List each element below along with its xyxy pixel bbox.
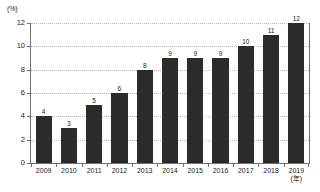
bar-value-label: 4 (42, 108, 46, 115)
bar[interactable]: 8 (137, 70, 153, 163)
bar[interactable]: 5 (86, 105, 102, 163)
x-axis-label: 2019(年) (284, 166, 309, 190)
x-axis-label-text: 2010 (56, 166, 81, 175)
bar-slot: 10 (233, 23, 258, 163)
x-axis-label-text: 2015 (183, 166, 208, 175)
x-axis-unit-label: (年) (284, 175, 309, 183)
bar[interactable]: 12 (288, 23, 304, 163)
y-tick-label: 12 (17, 19, 25, 27)
x-axis-labels: 2009201020112012201320142015201620172018… (31, 166, 309, 190)
y-tick-label: 10 (17, 42, 25, 50)
bar-slot: 9 (183, 23, 208, 163)
y-tick-mark (27, 23, 30, 24)
y-tick-label: 6 (21, 89, 25, 97)
bar-chart: (%) 024681012 43568999101112 20092010201… (0, 0, 320, 192)
bar-slot: 6 (107, 23, 132, 163)
bar-slot: 3 (56, 23, 81, 163)
x-axis-label-text: 2017 (233, 166, 258, 175)
bar[interactable]: 4 (36, 116, 52, 163)
bar-slot: 9 (157, 23, 182, 163)
bar-value-label: 12 (293, 15, 300, 22)
bar-value-label: 3 (67, 120, 71, 127)
x-axis-label-text: 2016 (208, 166, 233, 175)
y-tick-label: 0 (21, 159, 25, 167)
bar-value-label: 10 (242, 38, 249, 45)
bar-value-label: 11 (268, 27, 275, 34)
x-axis-label: 2017 (233, 166, 258, 190)
y-tick-mark (27, 70, 30, 71)
right-axis-line (309, 23, 310, 164)
bar[interactable]: 3 (61, 128, 77, 163)
bars-group: 43568999101112 (31, 23, 309, 163)
y-tick-label: 8 (21, 66, 25, 74)
x-axis-label: 2013 (132, 166, 157, 190)
x-axis-label-text: 2014 (157, 166, 182, 175)
plot-area: 024681012 43568999101112 (30, 23, 310, 164)
bar[interactable]: 11 (263, 35, 279, 163)
x-axis-label: 2012 (107, 166, 132, 190)
bar-value-label: 5 (92, 97, 96, 104)
bar-slot: 8 (132, 23, 157, 163)
y-axis-unit-label: (%) (7, 5, 17, 13)
bar-slot: 9 (208, 23, 233, 163)
x-axis-label: 2009 (31, 166, 56, 190)
bar[interactable]: 10 (238, 46, 254, 163)
bar[interactable]: 6 (111, 93, 127, 163)
bar-value-label: 9 (219, 50, 223, 57)
y-tick-mark (27, 116, 30, 117)
y-tick-mark (27, 46, 30, 47)
bar-slot: 5 (82, 23, 107, 163)
x-axis-label: 2014 (157, 166, 182, 190)
bar-slot: 11 (258, 23, 283, 163)
bar[interactable]: 9 (187, 58, 203, 163)
bar[interactable]: 9 (212, 58, 228, 163)
x-axis-label-text: 2012 (107, 166, 132, 175)
x-axis-label-text: 2009 (31, 166, 56, 175)
x-axis-label-text: 2013 (132, 166, 157, 175)
x-axis-label: 2010 (56, 166, 81, 190)
x-axis-label-text: 2018 (258, 166, 283, 175)
x-axis-label: 2011 (82, 166, 107, 190)
bar-slot: 4 (31, 23, 56, 163)
x-axis-label: 2018 (258, 166, 283, 190)
bar[interactable]: 9 (162, 58, 178, 163)
x-axis-label: 2016 (208, 166, 233, 190)
x-axis-label-text: 2019 (284, 166, 309, 175)
y-tick-label: 2 (21, 136, 25, 144)
x-axis-label: 2015 (183, 166, 208, 190)
x-axis-label-text: 2011 (82, 166, 107, 175)
bar-value-label: 6 (118, 85, 122, 92)
y-tick-label: 4 (21, 112, 25, 120)
y-tick-mark (27, 93, 30, 94)
bar-value-label: 9 (168, 50, 172, 57)
bar-value-label: 8 (143, 62, 147, 69)
bar-value-label: 9 (193, 50, 197, 57)
y-tick-mark (27, 163, 30, 164)
y-tick-mark (27, 140, 30, 141)
bar-slot: 12 (284, 23, 309, 163)
